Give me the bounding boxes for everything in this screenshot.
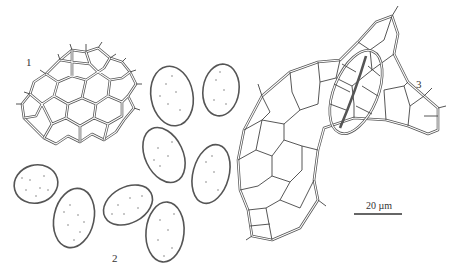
panel-3-epidermis [238,6,446,240]
figure: 1 2 3 20 µm [0,0,461,273]
scale-bar-label: 20 µm [366,200,392,211]
panel-label-3: 3 [416,78,422,90]
panel-1-reticulum [16,42,142,144]
panel-label-1: 1 [26,56,32,68]
panel-label-2: 2 [112,252,118,264]
panel-2-spores [10,62,243,264]
illustration [0,0,461,273]
